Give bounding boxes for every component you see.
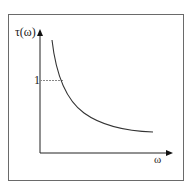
x-axis-arrow-icon [166, 150, 173, 156]
tau-curve [52, 40, 153, 132]
y-marker-label: 1 [34, 73, 40, 88]
y-axis-label: τ(ω) [15, 25, 36, 40]
y-axis-arrow-icon [37, 29, 43, 36]
x-axis-label: ω [154, 153, 161, 165]
